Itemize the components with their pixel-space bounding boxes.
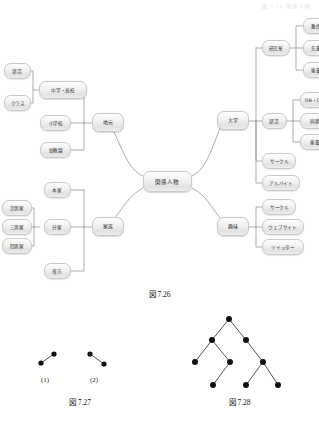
mindmap-node-hahakata[interactable]: 母方 [44,263,71,279]
figure-7-28: 図 7.28 [160,312,319,422]
mindmap-node-shougakkou[interactable]: 小学校 [40,115,71,131]
mindmap-node-center[interactable]: 関係人物 [143,171,192,192]
node-label: 後輩 [311,68,319,73]
mindmap-node-kyouju[interactable]: 教授 [303,18,319,34]
node-label: 地元 [103,120,113,125]
node-label: サークル [269,205,288,210]
node-label: 幼稚園 [48,148,62,153]
node-label: 部活 [270,119,280,124]
node-label: 関係人物 [155,179,179,185]
node-label: 後輩 [310,140,319,145]
node-label: 研究室 [269,46,283,51]
mindmap-node-chugaku-koukou[interactable]: 中学・高校 [39,81,87,99]
mindmap-node-circle-university[interactable]: サークル [262,153,296,169]
node-label: 先輩 [311,46,319,51]
mindmap-node-jinanke[interactable]: 次男家 [2,200,32,216]
node-label: 四男家 [10,244,24,249]
node-label: 本家 [53,188,63,193]
node-label: クラス [10,101,24,106]
node-label: 部活 [13,69,23,74]
node-label: サークル [269,159,288,164]
figure-7-27-sublabel-1: (1) [41,376,49,384]
mindmap-node-circle-hobby[interactable]: サークル [262,199,296,215]
mindmap-node-arubaito[interactable]: アルバイト [262,175,300,191]
mindmap-node-sannanke[interactable]: 三男家 [2,219,32,235]
mindmap-node-kouhai-lab[interactable]: 後輩 [303,62,319,78]
node-label: 次男家 [10,206,24,211]
mindmap-node-jimoto[interactable]: 地元 [92,113,124,132]
mindmap-node-bunke[interactable]: 分家 [44,219,71,235]
mindmap-node-website[interactable]: ウェブサイト [262,219,304,235]
mindmap-node-kenkyushitsu[interactable]: 研究室 [262,40,290,56]
mindmap-node-kouhai-club[interactable]: 後輩 [300,134,319,150]
mindmap-node-senpai[interactable]: 先輩 [303,40,319,56]
mindmap-node-ob-og[interactable]: OB・OG [300,92,319,108]
mindmap-node-douki[interactable]: 同期 [300,113,319,129]
mindmap-figure-7-26: 関係人物 地元 中学・高校 部活 クラス 小学校 幼稚園 家族 本家 分家 [0,8,319,280]
figure-7-27-sublabel-2: (2) [90,376,98,384]
mindmap-node-bukatsu-highschool[interactable]: 部活 [4,63,31,79]
node-label: 大学 [228,118,238,123]
figure-caption-7-26: 図 7.26 [0,288,319,299]
mindmap-node-daigaku[interactable]: 大学 [217,111,249,130]
node-label: OB・OG [305,98,319,103]
node-label: アルバイト [269,181,293,186]
node-label: 家族 [103,224,113,229]
node-label: 中学・高校 [51,88,75,93]
node-label: 同期 [310,119,319,124]
node-label: 母方 [53,269,63,274]
figure-caption-7-28: 図 7.28 [160,396,319,407]
figure-caption-7-27: 図 7.27 [0,396,160,407]
mindmap-node-shumi[interactable]: 趣味 [217,217,249,236]
mindmap-node-class[interactable]: クラス [4,95,31,111]
node-label: ツイッター [271,245,295,250]
mindmap-node-youchien[interactable]: 幼稚園 [40,142,71,158]
mindmap-node-honke[interactable]: 本家 [44,182,71,198]
figure-7-27: (1) (2) 図 7.27 [0,318,160,422]
node-label: 分家 [53,225,63,230]
mindmap-node-bukatsu-university[interactable]: 部活 [262,113,287,129]
mindmap-node-twitter[interactable]: ツイッター [262,239,304,255]
mindmap-node-yonnanke[interactable]: 四男家 [2,238,32,254]
node-label: 教授 [311,24,319,29]
node-label: ウェブサイト [269,225,298,230]
node-label: 三男家 [10,225,24,230]
node-label: 小学校 [48,121,62,126]
mindmap-node-kazoku[interactable]: 家族 [92,217,124,236]
node-label: 趣味 [228,224,238,229]
textbook-page: 図 7.26 関係人物 [0,0,319,422]
